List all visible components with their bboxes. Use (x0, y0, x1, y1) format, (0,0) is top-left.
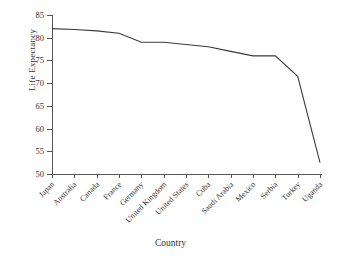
y-axis-title: Life Expectancy (27, 0, 37, 140)
y-tick-label: 85 (0, 10, 44, 20)
y-tick-label: 75 (0, 55, 44, 65)
x-tick-label-turkey: Turkey (280, 180, 303, 203)
y-tick-label: 55 (0, 146, 44, 156)
y-tick-label: 80 (0, 33, 44, 43)
x-tick-label-uganda: Uganda (300, 180, 324, 204)
line-path (52, 29, 320, 163)
x-tick-label-australia: Australia (52, 180, 79, 207)
x-tick-label-japan: Japan (37, 180, 56, 199)
y-tick-label: 60 (0, 124, 44, 134)
x-tick-label-cuba: Cuba (194, 180, 212, 198)
y-tick-label: 70 (0, 78, 44, 88)
data-series-life-expectancy (52, 15, 322, 177)
x-axis-title: Country (0, 238, 341, 248)
y-tick-label: 65 (0, 101, 44, 111)
life-expectancy-chart: Life Expectancy 5055606570758085 JapanAu… (0, 0, 341, 264)
y-tick-label: 50 (0, 169, 44, 179)
x-tick-label-mexico: Mexico (234, 180, 258, 204)
x-tick-label-canada: Canada (78, 180, 101, 203)
x-tick-label-serbia: Serbia (259, 180, 280, 201)
